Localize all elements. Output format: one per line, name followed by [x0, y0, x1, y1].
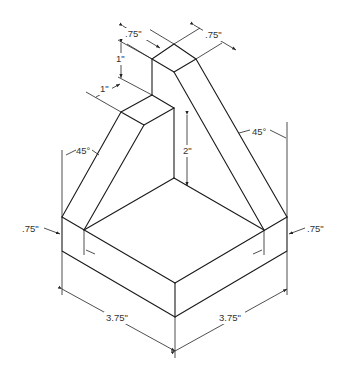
label-left-length: 3.75": [106, 312, 128, 323]
isometric-drawing: .75" .75" 1" 1" 45° 2" 45° .75" .75" 3.7…: [0, 0, 349, 379]
label-right-length: 3.75": [219, 312, 241, 323]
label-inner-height: 2": [183, 145, 192, 156]
drawing-svg: .75" .75" 1" 1" 45° 2" 45° .75" .75" 3.7…: [0, 0, 349, 379]
label-top-right-width: .75": [205, 29, 222, 40]
label-step-depth: 1": [100, 83, 109, 94]
label-left-thickness: .75": [22, 223, 39, 234]
dimension-labels: .75" .75" 1" 1" 45° 2" 45° .75" .75" 3.7…: [22, 28, 324, 324]
label-upright-height: 1": [116, 53, 125, 64]
label-right-angle: 45°: [252, 126, 267, 137]
object-outline: [62, 44, 287, 317]
label-left-angle: 45°: [76, 145, 91, 156]
label-right-thickness: .75": [307, 223, 324, 234]
label-top-left-width: .75": [125, 28, 142, 39]
